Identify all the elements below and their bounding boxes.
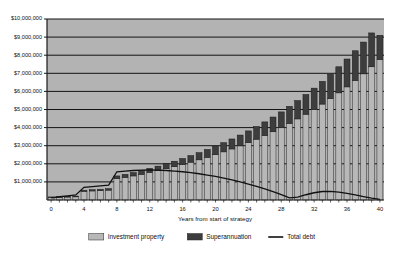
bar-segment	[122, 174, 128, 177]
bar-segment	[163, 169, 169, 200]
x-tick-label: 12	[147, 206, 153, 212]
bar-segment	[295, 119, 301, 200]
bar-segment	[229, 139, 235, 149]
bar-segment	[196, 160, 202, 200]
bar-segment	[319, 81, 325, 104]
bar-segment	[377, 60, 383, 200]
bar-segment	[270, 117, 276, 132]
bar-segment	[171, 161, 177, 166]
bar-segment	[360, 74, 366, 200]
bar-segment	[188, 156, 194, 163]
bar-segment	[262, 122, 268, 136]
bar-segment	[270, 132, 276, 200]
bar-segment	[254, 139, 260, 200]
y-tick-label: $2,000,000	[14, 160, 42, 166]
bar-segment	[352, 81, 358, 200]
bar-segment	[360, 42, 366, 74]
bar-segment	[278, 112, 284, 128]
bar-segment	[81, 191, 87, 200]
bar-segment	[311, 109, 317, 200]
bar-segment	[336, 93, 342, 200]
bar-segment	[221, 143, 227, 152]
bar-segment	[237, 146, 243, 200]
bar-segment	[295, 101, 301, 119]
investment-projection-chart: $10,000,000$9,000,000$8,000,000$7,000,00…	[0, 0, 408, 264]
bar-segment	[106, 189, 112, 191]
y-tick-label: $8,000,000	[14, 52, 42, 58]
x-tick-label: 40	[377, 206, 383, 212]
bar-segment	[196, 153, 202, 160]
x-tick-label: 28	[278, 206, 284, 212]
bar-segment	[97, 191, 103, 200]
bar-segment	[311, 88, 317, 109]
x-tick-label: 0	[49, 206, 52, 212]
bar-segment	[245, 143, 251, 200]
bar-segment	[328, 74, 334, 98]
legend-swatch	[89, 234, 104, 241]
bar-segment	[89, 190, 95, 191]
legend-swatch	[187, 234, 202, 241]
bar-segment	[163, 164, 169, 169]
bar-segment	[73, 196, 79, 197]
x-tick-label: 16	[179, 206, 185, 212]
bar-segment	[344, 87, 350, 200]
bar-segment	[204, 149, 210, 157]
bar-segment	[155, 171, 161, 200]
bar-segment	[369, 67, 375, 200]
bar-segment	[262, 136, 268, 200]
bar-segment	[81, 190, 87, 191]
y-tick-label: $6,000,000	[14, 88, 42, 94]
bar-segment	[221, 152, 227, 200]
legend-label: Superannuation	[206, 233, 252, 241]
y-tick-label: $3,000,000	[14, 142, 42, 148]
bar-segment	[377, 35, 383, 59]
y-tick-label: $10,000,000	[11, 15, 42, 21]
bar-segment	[336, 67, 342, 93]
chart-container: $10,000,000$9,000,000$8,000,000$7,000,00…	[0, 0, 408, 264]
bar-segment	[245, 131, 251, 143]
x-tick-label: 20	[212, 206, 218, 212]
y-tick-label: $4,000,000	[14, 124, 42, 130]
y-tick-label: $5,000,000	[14, 106, 42, 112]
legend-label: Total debt	[287, 233, 315, 240]
bar-segment	[254, 127, 260, 140]
bar-segment	[303, 114, 309, 200]
bar-segment	[130, 173, 136, 176]
bar-segment	[278, 128, 284, 200]
bar-segment	[287, 106, 293, 123]
bar-segment	[204, 157, 210, 200]
bar-segment	[188, 162, 194, 200]
y-tick-label: $1,000,000	[14, 178, 42, 184]
bar-segment	[180, 165, 186, 200]
bar-segment	[237, 135, 243, 146]
bar-segment	[122, 177, 128, 200]
y-tick-label: $7,000,000	[14, 70, 42, 76]
bar-segment	[328, 99, 334, 200]
x-axis-title: Years from start of strategy	[178, 215, 253, 222]
bar-segment	[180, 159, 186, 165]
bar-segment	[319, 104, 325, 200]
bar-segment	[97, 189, 103, 190]
x-tick-label: 36	[344, 206, 350, 212]
legend-label: Investment property	[108, 233, 165, 241]
x-tick-label: 24	[245, 206, 252, 212]
bar-segment	[89, 191, 95, 200]
bar-segment	[139, 174, 145, 200]
x-tick-label: 32	[311, 206, 317, 212]
bar-segment	[147, 172, 153, 200]
bar-segment	[229, 149, 235, 200]
bar-segment	[130, 176, 136, 200]
bar-segment	[106, 190, 112, 200]
bar-segment	[344, 59, 350, 87]
bar-segment	[369, 33, 375, 67]
bar-segment	[139, 171, 145, 175]
x-tick-label: 8	[115, 206, 118, 212]
bar-segment	[213, 146, 219, 154]
bar-segment	[287, 123, 293, 200]
y-tick-label: $9,000,000	[14, 34, 42, 40]
bar-segment	[352, 51, 358, 81]
bar-segment	[114, 179, 120, 200]
bar-segment	[303, 94, 309, 114]
